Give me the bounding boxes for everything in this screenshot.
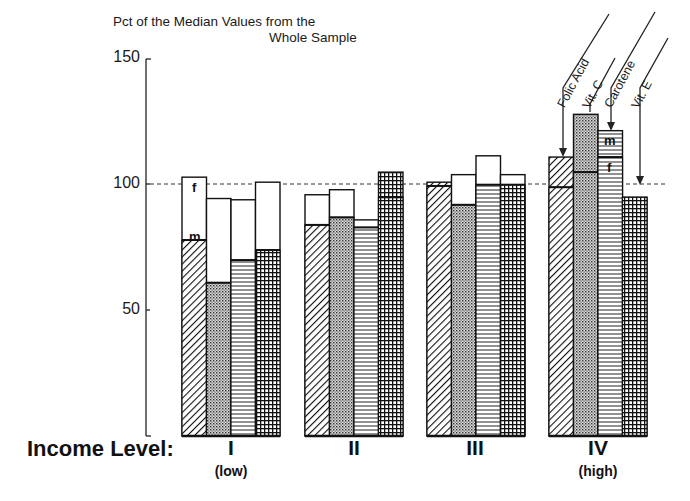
segment-label-f-group-iv: f (607, 160, 611, 175)
segment-label-m-group-iv: m (604, 133, 616, 148)
category-label-iv: IV (548, 436, 648, 460)
chart-title-line2: Whole Sample (269, 30, 357, 45)
bar-segment-lower (182, 240, 207, 436)
y-tick-100: 100 (90, 174, 140, 192)
chart-canvas (0, 0, 690, 501)
category-sublabel-iv: (high) (548, 463, 648, 479)
y-axis (146, 59, 151, 436)
bar-segment-lower (501, 185, 526, 436)
bar-segment-lower (354, 227, 379, 436)
bar-segment-lower (574, 172, 599, 436)
bar-segment-lower (427, 186, 452, 436)
bar-segment-lower (231, 260, 256, 436)
category-sublabel-i: (low) (181, 463, 281, 479)
segment-label-f-group-i: f (192, 180, 196, 195)
bar-segment-lower (623, 197, 648, 436)
y-tick-150: 150 (90, 48, 140, 66)
bar-segment-lower (598, 157, 623, 436)
segment-label-m-group-i: m (189, 229, 201, 244)
bar-segment-lower (476, 185, 501, 436)
category-label-iii: III (425, 436, 525, 460)
bar-segment-lower (256, 250, 281, 436)
bar-segment-lower (549, 187, 574, 436)
bar-segment-lower (379, 197, 404, 436)
category-label-ii: II (304, 436, 404, 460)
category-label-i: I (181, 436, 281, 460)
x-axis-label: Income Level: (27, 436, 174, 462)
bar-segment-lower (207, 283, 232, 436)
y-tick-50: 50 (90, 300, 140, 318)
bar-segment-lower (452, 205, 477, 436)
bars-layer (182, 114, 647, 436)
bar-segment-lower (330, 217, 355, 436)
chart-title-line1: Pct of the Median Values from the (113, 14, 315, 29)
bar-segment-lower (305, 225, 330, 436)
